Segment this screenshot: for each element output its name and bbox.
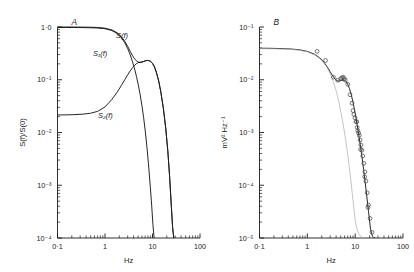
y-axis-tick-label: 10⁻⁵: [239, 234, 254, 243]
x-axis-tick-label: 0·1: [52, 242, 62, 251]
axis-frame: [58, 27, 201, 238]
y-axis-tick-label: 10⁻¹: [37, 75, 52, 84]
y-axis-tick-label: 1·0: [41, 23, 51, 32]
data-point-marker: [315, 49, 319, 53]
axis-frame: [260, 27, 404, 238]
curve-S(f): [58, 27, 174, 238]
curve-component-spectrum: [260, 49, 364, 238]
x-axis-tick-label: 1: [305, 242, 309, 251]
curve-label-S1(f): S₁(f): [93, 49, 108, 58]
x-axis-tick-label: 10: [149, 242, 157, 251]
y-axis-tick-label: 10⁻¹: [239, 23, 254, 32]
figure-container: 1·010⁻¹10⁻²10⁻³10⁻⁴0·1110100HzS(f)/S(0)A…: [0, 0, 414, 272]
curve-label-S2(f): S₂(f): [98, 111, 113, 120]
y-axis-tick-label: 10⁻²: [239, 75, 254, 84]
x-axis-tick-label: 100: [194, 242, 206, 251]
y-axis-tick-label: 10⁻⁴: [37, 234, 52, 243]
panel-a: 1·010⁻¹10⁻²10⁻³10⁻⁴0·1110100HzS(f)/S(0)A…: [0, 0, 207, 272]
curve-label-S(f): S(f): [116, 31, 128, 40]
data-point-marker: [365, 191, 369, 195]
y-axis-tick-label: 10⁻²: [37, 128, 52, 137]
y-axis-title: mV² Hz⁻¹: [220, 116, 229, 148]
data-point-marker: [324, 59, 328, 63]
y-axis-tick-label: 10⁻³: [37, 181, 52, 190]
panel-b-plot: 10⁻¹10⁻²10⁻³10⁻⁴10⁻⁵0·1110100HzmV² Hz⁻¹B: [207, 0, 414, 272]
x-axis-tick-label: 0·1: [254, 242, 264, 251]
x-axis-tick-label: 10: [351, 242, 359, 251]
x-axis-tick-label: 1: [103, 242, 107, 251]
panel-letter: A: [71, 17, 78, 27]
panel-letter: B: [274, 17, 280, 27]
y-axis-tick-label: 10⁻⁴: [239, 181, 254, 190]
curve-fitted-total-spectrum: [260, 48, 376, 238]
panel-a-plot: 1·010⁻¹10⁻²10⁻³10⁻⁴0·1110100HzS(f)/S(0)A…: [0, 0, 207, 272]
curve-S1(f): [58, 28, 155, 238]
data-point-marker: [368, 217, 372, 221]
x-axis-tick-label: 100: [397, 242, 409, 251]
x-axis-title: Hz: [124, 256, 133, 265]
x-axis-title: Hz: [327, 256, 336, 265]
y-axis-tick-label: 10⁻³: [239, 128, 254, 137]
panel-b: 10⁻¹10⁻²10⁻³10⁻⁴10⁻⁵0·1110100HzmV² Hz⁻¹B: [207, 0, 414, 272]
curve-S2(f): [58, 61, 174, 238]
y-axis-title: S(f)/S(0): [18, 118, 27, 147]
